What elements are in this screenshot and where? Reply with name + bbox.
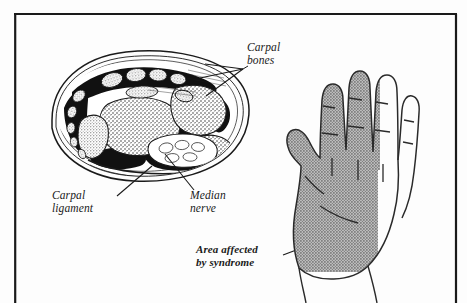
label-median-nerve: Median nerve [190,189,226,214]
median-nerve-bundle [148,134,217,167]
label-carpal-bones: Carpal bones [247,41,280,66]
label-carpal-ligament: Carpal ligament [52,189,93,214]
figure-root: Carpal bones Carpal ligament Median nerv… [0,0,467,303]
wrist-cross-section [52,51,249,182]
cross-section-interior [58,61,235,182]
little-finger-outline [398,96,419,218]
label-area-affected: Area affected by syndrome [196,243,258,268]
palm-view-hand [280,60,419,303]
